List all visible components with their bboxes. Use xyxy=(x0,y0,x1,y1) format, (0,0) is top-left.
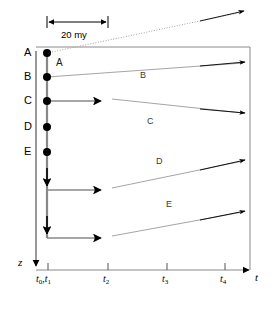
scale-bar-label: 20 my xyxy=(61,30,87,40)
node-label-a: A xyxy=(24,47,31,58)
node-e xyxy=(43,148,51,156)
t-axis-label: t xyxy=(255,272,258,283)
tick-t4-sub: 4 xyxy=(223,278,227,286)
tick-label-t2: t2 xyxy=(103,274,109,284)
node-b xyxy=(43,73,51,81)
node-label-e: E xyxy=(24,146,31,157)
tick-t2-sub: 2 xyxy=(106,278,110,286)
lineage-d xyxy=(47,160,245,190)
branch-label-a: A xyxy=(56,58,63,68)
z-axis-label: z xyxy=(18,257,22,268)
figure-container: 20 my A B C D E A B C D E z t t0,t1 t2 t… xyxy=(0,0,273,321)
lineage-diagram-svg xyxy=(0,0,273,321)
node-label-b: B xyxy=(24,71,31,82)
tick-label-t4: t4 xyxy=(220,274,226,284)
tick-label-t3: t3 xyxy=(162,274,168,284)
scale-bar xyxy=(47,16,108,28)
tick-label-t0-t1: t0,t1 xyxy=(36,274,51,284)
lineage-e xyxy=(47,211,245,238)
tick-t3-sub: 3 xyxy=(165,278,169,286)
node-label-c: C xyxy=(24,95,32,106)
lineage-c xyxy=(47,99,245,113)
node-c xyxy=(43,97,51,105)
node-d xyxy=(43,123,51,131)
branch-label-c: C xyxy=(147,117,154,126)
node-label-d: D xyxy=(24,121,32,132)
plot-frame xyxy=(36,47,250,270)
branch-label-d: D xyxy=(156,157,163,166)
t-axis xyxy=(36,263,249,270)
branch-label-b: B xyxy=(140,71,146,80)
node-a xyxy=(43,49,51,57)
branch-label-e: E xyxy=(166,200,172,209)
